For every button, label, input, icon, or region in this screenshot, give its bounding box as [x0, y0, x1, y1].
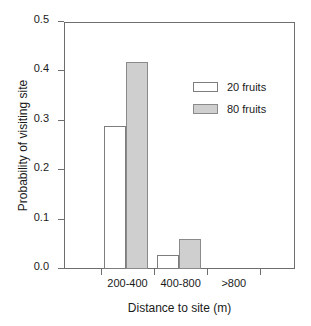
legend-swatch-icon-20-fruits [193, 82, 218, 92]
x-tick-boundary-1 [154, 269, 155, 275]
legend-label-20-fruits: 20 fruits [227, 82, 266, 93]
legend-label-80-fruits: 80 fruits [227, 104, 266, 115]
x-tick-label-0: 200-400 [107, 278, 147, 289]
x-tick-label-1: 400-800 [160, 278, 200, 289]
bar-20-fruits-400-800 [157, 255, 179, 269]
plot-area: 0.0 0.1 0.2 0.3 0.4 0.5 200-400 400-800 … [64, 22, 295, 269]
y-tick-5: 0.5 [58, 21, 64, 22]
y-tick-3: 0.3 [58, 120, 64, 121]
y-tick-2: 0.2 [58, 169, 64, 170]
legend-entry-20-fruits: 20 fruits [193, 76, 266, 98]
y-axis-title: Probability of visiting site [16, 22, 32, 269]
y-tick-label-3: 0.3 [34, 113, 49, 124]
y-tick-label-4: 0.4 [34, 63, 49, 74]
x-tick-boundary-3 [260, 269, 261, 275]
legend-entry-80-fruits: 80 fruits [193, 98, 266, 120]
x-axis-title: Distance to site (m) [64, 301, 295, 315]
y-tick-label-0: 0.0 [34, 261, 49, 272]
x-tick-boundary-0 [101, 269, 102, 275]
chart-legend: 20 fruits 80 fruits [193, 76, 266, 120]
y-tick-label-2: 0.2 [34, 162, 49, 173]
x-tick-label-2: >800 [221, 278, 246, 289]
y-tick-label-5: 0.5 [34, 14, 49, 25]
legend-swatch-icon-80-fruits [193, 104, 218, 114]
y-tick-0: 0.0 [58, 268, 64, 269]
bar-80-fruits-400-800 [179, 239, 201, 269]
bar-80-fruits-200-400 [126, 62, 148, 269]
chart-figure: 0.0 0.1 0.2 0.3 0.4 0.5 200-400 400-800 … [0, 0, 311, 326]
y-tick-1: 0.1 [58, 219, 64, 220]
y-tick-4: 0.4 [58, 70, 64, 71]
y-tick-label-1: 0.1 [34, 212, 49, 223]
bar-20-fruits-200-400 [104, 126, 126, 269]
x-tick-boundary-2 [207, 269, 208, 275]
